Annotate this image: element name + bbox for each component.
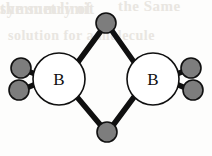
bond-bridge	[77, 97, 103, 128]
atoms-layer: BB	[9, 13, 203, 142]
bond-bridge	[111, 97, 134, 128]
atom-H-term-upper-left	[11, 58, 31, 78]
atom-label-B-left: B	[53, 70, 64, 89]
bond-bridge	[110, 28, 134, 62]
molecular-structure-svg: BB	[0, 0, 212, 156]
atom-label-B-right: B	[147, 70, 158, 89]
diborane-figure: the Same solution for a molecule limit s…	[0, 0, 212, 156]
atom-H-bridge-bottom	[97, 122, 117, 142]
atom-H-term-upper-right	[181, 58, 201, 78]
atom-H-term-lower-left	[9, 80, 29, 100]
bond-bridge	[78, 28, 103, 62]
atom-H-bridge-top	[96, 13, 116, 33]
atom-H-term-lower-right	[183, 80, 203, 100]
